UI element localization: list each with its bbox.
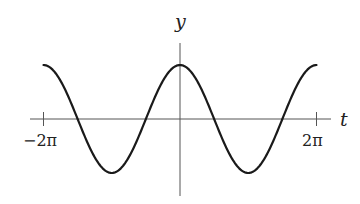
y-axis-label: y [174, 10, 186, 32]
tick-label-pos-2pi: 2π [302, 131, 323, 150]
x-axis-label: t [340, 108, 348, 130]
tick-label-neg-2pi: −2π [23, 131, 57, 150]
cosine-plot: y t −2π 2π [0, 0, 360, 204]
